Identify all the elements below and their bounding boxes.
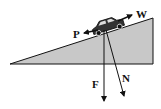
label-P: P: [73, 28, 80, 40]
incline-diagram: P W F N: [0, 0, 161, 109]
label-N: N: [122, 72, 130, 84]
inclined-plane: [10, 18, 153, 64]
label-W: W: [136, 8, 147, 20]
force-W-arrow: [118, 15, 132, 21]
label-F: F: [92, 78, 99, 90]
